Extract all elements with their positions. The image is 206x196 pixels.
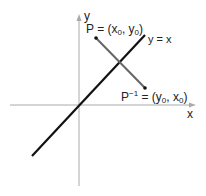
x-axis-label: x: [187, 108, 193, 120]
y-axis-arrow-icon: [77, 14, 82, 21]
point-p-inverse-label: P−1 = (y0, x0): [121, 90, 187, 105]
point-p-inverse-name: P: [121, 90, 129, 104]
point-p-name: P: [86, 22, 94, 36]
y-axis-label: y: [84, 10, 90, 22]
line-label: y = x: [148, 34, 172, 45]
diagram-canvas: y x y = x P = (x0, y0) P−1 = (y0, x0): [0, 0, 206, 196]
point-p-label: P = (x0, y0): [86, 23, 143, 37]
